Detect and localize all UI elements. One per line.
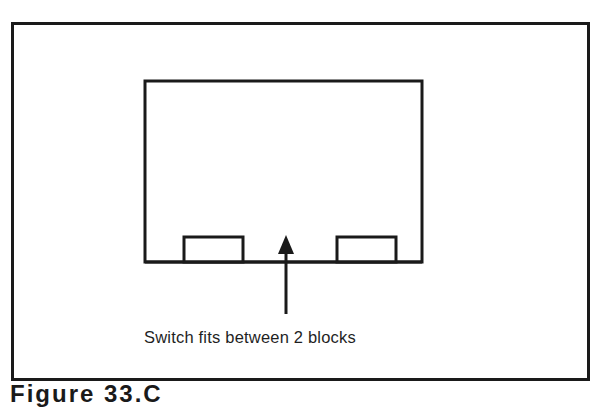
enclosure (145, 81, 422, 262)
right-block (337, 237, 396, 262)
diagram-label: Switch fits between 2 blocks (144, 328, 356, 347)
figure-caption: Figure 33.C (10, 380, 163, 408)
left-block (184, 237, 243, 262)
arrow-up-icon (278, 235, 294, 314)
